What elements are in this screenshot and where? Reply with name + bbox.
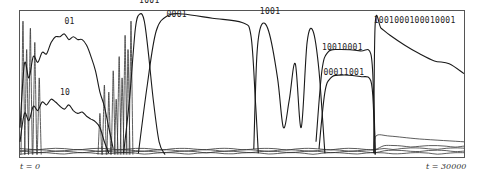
series-curve-7 <box>374 15 464 153</box>
series-curve-6 <box>319 75 375 155</box>
line-chart: 0110100100011001100100010001100110010001… <box>0 0 484 179</box>
baseline-noise-curve <box>20 150 464 153</box>
series-label-2: 1001 <box>139 0 159 5</box>
series-label-1: 10 <box>60 88 70 97</box>
series-label-4: 1001 <box>260 7 280 16</box>
x-start-label: t = 0 <box>20 162 40 171</box>
x-start-label-text: t = 0 <box>20 162 40 171</box>
plot-frame <box>20 11 465 158</box>
series-label-5: 10010001 <box>322 43 363 52</box>
x-end-label-text: t = 30000 <box>426 162 466 171</box>
background-noise-curves <box>20 21 464 155</box>
transient-spike <box>37 78 41 155</box>
series-curves <box>20 13 464 154</box>
series-curve-4 <box>254 23 325 153</box>
x-end-label: t = 30000 <box>426 162 466 171</box>
transient-spike <box>28 28 32 154</box>
transient-spike <box>21 21 25 155</box>
series-curve-5 <box>316 49 375 154</box>
series-label-7: 1001000100010001 <box>374 16 456 25</box>
series-curve-3 <box>138 13 258 153</box>
series-label-3: 0001 <box>167 10 187 19</box>
series-label-0: 01 <box>64 17 74 26</box>
baseline-noise-curve <box>20 153 464 155</box>
series-label-6: 00011001 <box>323 68 364 77</box>
